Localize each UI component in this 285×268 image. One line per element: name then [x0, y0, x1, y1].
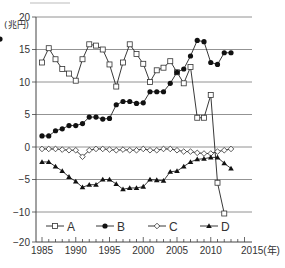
square-marker-icon [134, 52, 139, 57]
triangle-marker-icon [59, 168, 65, 173]
square-marker-icon [100, 47, 105, 52]
circle-marker-icon [46, 133, 51, 138]
triangle-marker-icon [113, 181, 119, 186]
circle-marker-icon [141, 100, 146, 105]
circle-marker-icon [87, 115, 92, 120]
axes: 20151050−5−10−20(兆円)19851990199520002005… [4, 12, 280, 257]
circle-marker-icon [73, 123, 78, 128]
y-tick-label: −20 [13, 237, 30, 248]
circle-marker-icon [107, 116, 112, 121]
square-marker-icon [73, 78, 78, 83]
diamond-marker-icon [181, 149, 187, 155]
circle-marker-icon [154, 89, 159, 94]
x-tick-label: 2015(年) [241, 244, 280, 256]
circle-marker-icon [215, 62, 220, 67]
y-tick-label: 0 [24, 142, 30, 153]
square-marker-icon [40, 60, 45, 65]
diamond-marker-icon [147, 147, 153, 153]
y-tick-label: 15 [19, 44, 31, 55]
square-marker-icon [67, 71, 72, 76]
circle-marker-icon [127, 99, 132, 104]
square-marker-icon [60, 67, 65, 72]
square-marker-icon [215, 180, 220, 185]
circle-marker-icon [188, 53, 193, 58]
square-marker-icon [114, 84, 119, 89]
square-marker-icon [107, 62, 112, 67]
circle-marker-icon [201, 39, 206, 44]
x-tick-label: 1990 [65, 245, 88, 256]
circle-marker-icon [168, 81, 173, 86]
y-tick-label: 10 [19, 77, 31, 88]
square-marker-icon [148, 80, 153, 85]
circle-marker-icon [161, 89, 166, 94]
legend-label: C [169, 220, 178, 234]
circle-marker-icon [93, 115, 98, 120]
y-tick-label: −5 [19, 174, 31, 185]
square-marker-icon [188, 65, 193, 70]
data-series [0, 37, 234, 217]
y-tick-label: −10 [13, 207, 30, 218]
circle-marker-icon [80, 121, 85, 126]
x-tick-label: 2000 [132, 245, 155, 256]
circle-marker-icon [174, 70, 179, 75]
y-tick-label: 5 [24, 109, 30, 120]
legend-label: B [117, 220, 125, 234]
diamond-marker-icon [134, 147, 140, 153]
x-tick-label: 1995 [98, 245, 121, 256]
triangle-marker-icon [228, 166, 234, 171]
circle-marker-icon [114, 102, 119, 107]
square-marker-icon [222, 211, 227, 216]
legend-item-B: B [96, 220, 125, 234]
legend-label: A [67, 220, 75, 234]
diamond-marker-icon [66, 147, 72, 153]
square-marker-icon [168, 59, 173, 64]
circle-marker-icon [208, 60, 213, 65]
square-marker-icon [121, 60, 126, 65]
square-marker-icon [127, 42, 132, 47]
diamond-marker-icon [107, 147, 113, 153]
diamond-marker-icon [59, 147, 65, 153]
diamond-marker-icon [113, 147, 119, 153]
diamond-marker-icon [174, 147, 180, 153]
legend: ABCD [46, 220, 230, 234]
x-tick-label: 2005 [166, 245, 189, 256]
square-marker-icon [161, 65, 166, 70]
circle-marker-icon [134, 101, 139, 106]
square-marker-icon [202, 115, 207, 120]
circle-marker-icon [39, 133, 44, 138]
diamond-marker-icon [154, 223, 160, 229]
square-marker-icon [208, 93, 213, 98]
legend-item-A: A [46, 220, 75, 234]
circle-marker-icon [195, 38, 200, 43]
circle-marker-icon [100, 116, 105, 121]
circle-marker-icon [181, 66, 186, 71]
diamond-marker-icon [120, 147, 126, 153]
diamond-marker-icon [194, 150, 200, 156]
square-marker-icon [141, 61, 146, 66]
y-unit-label: (兆円) [4, 20, 29, 30]
legend-label: D [221, 220, 230, 234]
circle-marker-icon [60, 126, 65, 131]
diamond-marker-icon [154, 147, 160, 153]
diamond-marker-icon [221, 147, 227, 153]
series-D [39, 155, 234, 192]
square-marker-icon [46, 46, 51, 51]
series-A [40, 42, 227, 216]
diamond-marker-icon [201, 151, 207, 157]
square-marker-icon [53, 57, 58, 62]
square-marker-icon [87, 42, 92, 47]
circle-marker-icon [102, 223, 107, 228]
triangle-marker-icon [174, 168, 180, 173]
square-marker-icon [80, 57, 85, 62]
diamond-marker-icon [188, 149, 194, 155]
line-chart: 20151050−5−10−20(兆円)19851990199520002005… [0, 0, 285, 268]
legend-item-D: D [200, 220, 230, 234]
circle-marker-icon [66, 123, 71, 128]
circle-marker-icon [147, 89, 152, 94]
triangle-marker-icon [53, 164, 59, 169]
x-tick-label: 1985 [31, 245, 54, 256]
triangle-marker-icon [181, 164, 187, 169]
x-tick-label: 2010 [200, 245, 223, 256]
square-marker-icon [53, 224, 58, 229]
square-marker-icon [195, 115, 200, 120]
